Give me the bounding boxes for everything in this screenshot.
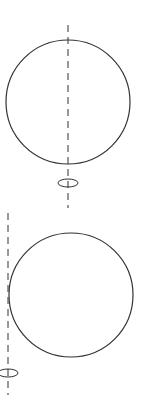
figure-bottom bbox=[0, 213, 133, 395]
rotation-arrow-icon-bottom bbox=[0, 369, 18, 377]
diagram-canvas bbox=[0, 0, 142, 420]
figure-top bbox=[6, 25, 130, 208]
sphere-outline-bottom bbox=[9, 233, 133, 357]
